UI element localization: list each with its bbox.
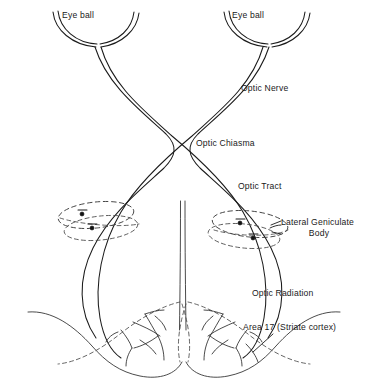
branch-l-4 xyxy=(158,336,164,360)
optic-pathway-diagram: Eye ball Eye ball Optic Nerve Optic Chia… xyxy=(0,0,368,388)
branch-r-7 xyxy=(204,310,223,314)
label-eye-ball-right: Eye ball xyxy=(232,10,264,21)
branch-r-4 xyxy=(204,336,210,360)
optic-nerve-left xyxy=(82,47,266,358)
lgb-left-ellipse-upper xyxy=(57,198,135,232)
branch-r-3 xyxy=(210,336,234,348)
label-lgb-line1: Lateral Geniculate xyxy=(281,217,354,227)
label-optic-tract: Optic Tract xyxy=(238,181,282,192)
occipital-lobe-left xyxy=(28,302,190,377)
lateral-geniculate-body-left xyxy=(57,198,139,244)
branch-r-1 xyxy=(208,322,235,336)
branch-l-6 xyxy=(126,348,132,366)
branch-l-8 xyxy=(155,316,166,330)
occipital-lobe-right-inner-dashed xyxy=(188,302,310,364)
branch-r-6 xyxy=(236,348,242,366)
lgb-right-synapse-2 xyxy=(251,236,255,240)
occipital-lobe-left-inner-dashed xyxy=(58,302,180,364)
branch-l-3 xyxy=(134,336,158,348)
label-eye-ball-left: Eye ball xyxy=(62,10,94,21)
optic-nerve-left-fiber-outer xyxy=(82,47,174,338)
midline-left-line xyxy=(180,201,181,330)
lgb-left-synapse-2 xyxy=(90,226,94,230)
eye-ball-right-inner-arc-2 xyxy=(271,12,305,44)
lgb-right-synapse-1 xyxy=(238,221,242,225)
midline-right-line xyxy=(185,201,186,330)
branch-l-7 xyxy=(145,310,164,314)
eye-ball-left-inner-arc-2 xyxy=(100,12,134,44)
occipital-lobe-right xyxy=(178,302,340,377)
leader-lateral-geniculate xyxy=(270,225,281,228)
branch-l-1 xyxy=(133,322,160,336)
label-optic-radiation: Optic Radiation xyxy=(252,288,313,299)
midline xyxy=(180,201,187,330)
label-lgb-line2: Body xyxy=(281,228,357,239)
branch-r-11 xyxy=(246,344,258,362)
lgb-left-synapse-1 xyxy=(80,212,84,216)
label-area-17: Area 17 (Striate cortex) xyxy=(243,322,336,333)
branch-l-5 xyxy=(121,330,132,348)
label-lateral-geniculate-body: Lateral Geniculate Body xyxy=(281,217,367,239)
label-optic-chiasma: Optic Chiasma xyxy=(196,138,255,149)
label-optic-nerve: Optic Nerve xyxy=(241,83,288,94)
branch-r-8 xyxy=(202,316,213,330)
leader-lateral-geniculate-upper xyxy=(271,221,281,225)
